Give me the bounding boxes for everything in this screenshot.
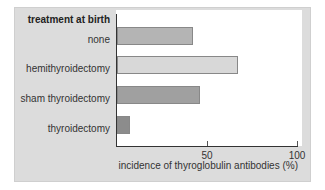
bar-thyroidectomy [117, 116, 130, 134]
bar-none [117, 27, 193, 45]
category-label: thyroidectomy [48, 123, 110, 134]
bar-hemithyroidectomy [117, 56, 238, 74]
category-label: hemithyroidectomy [26, 63, 110, 74]
category-label: none [88, 34, 110, 45]
bar-sham-thyroidectomy [117, 86, 200, 104]
x-tick [207, 141, 208, 146]
x-axis [116, 146, 298, 147]
x-axis-label: incidence of thyroglobulin antibodies (%… [118, 160, 298, 171]
x-tick [297, 141, 298, 146]
y-axis-title: treatment at birth [28, 14, 110, 25]
category-label: sham thyroidectomy [21, 93, 110, 104]
